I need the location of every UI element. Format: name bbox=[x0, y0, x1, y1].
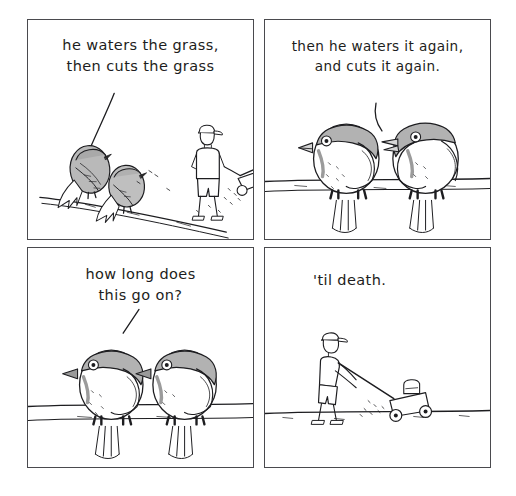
speech-pointer-line bbox=[123, 309, 139, 333]
panel-3-artwork bbox=[28, 248, 253, 467]
speech-pointer-line bbox=[375, 103, 382, 131]
comic-panel-2: then he waters it again, and cuts it aga… bbox=[264, 19, 491, 240]
comic-panel-3: how long does this go on? bbox=[27, 247, 254, 468]
panel-grid: he waters the grass, then cuts the grass bbox=[27, 19, 491, 468]
comic-panel-1: he waters the grass, then cuts the grass bbox=[27, 19, 254, 240]
comic-strip: he waters the grass, then cuts the grass bbox=[0, 0, 516, 496]
panel-2-artwork bbox=[265, 20, 490, 239]
comic-panel-4: 'til death. bbox=[264, 247, 491, 468]
panel-1-artwork bbox=[28, 20, 253, 239]
speech-pointer-line bbox=[89, 93, 114, 149]
panel-4-artwork bbox=[265, 248, 490, 467]
